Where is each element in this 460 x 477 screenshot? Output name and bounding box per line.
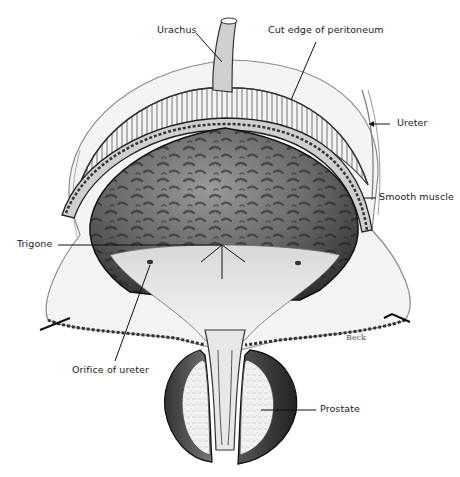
label-trigone: Trigone — [17, 238, 52, 249]
ureter-orifice-right — [295, 261, 301, 265]
artist-signature: Beck — [346, 333, 366, 342]
label-prostate: Prostate — [320, 403, 360, 414]
label-smooth-muscle: Smooth muscle — [379, 191, 454, 202]
bladder-illustration — [0, 0, 460, 477]
label-ureter: Ureter — [397, 117, 428, 128]
label-urachus: Urachus — [157, 24, 197, 35]
bladder-anatomy-figure: Urachus Cut edge of peritoneum Ureter Sm… — [0, 0, 460, 477]
label-cut-edge-of-peritoneum: Cut edge of peritoneum — [268, 24, 384, 35]
ureter-orifice-left — [147, 260, 153, 264]
label-orifice-of-ureter: Orifice of ureter — [72, 364, 149, 375]
